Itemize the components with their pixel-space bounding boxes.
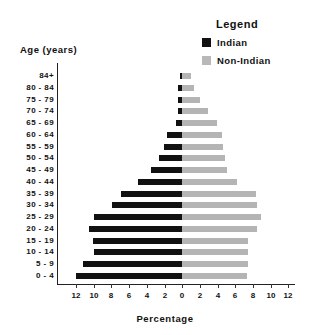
bar-indian (164, 144, 182, 150)
bar-indian (76, 273, 182, 279)
bar-indian (151, 167, 182, 173)
x-tick-label: 8 (243, 291, 263, 300)
x-tick (200, 284, 201, 288)
bar-non-indian (182, 97, 200, 103)
age-label: 50 - 54 (26, 154, 54, 162)
bar-non-indian (182, 214, 261, 220)
bar-non-indian (182, 144, 223, 150)
age-label: 70 - 74 (26, 107, 54, 115)
age-label: 0 - 4 (36, 272, 54, 280)
bar-indian (94, 249, 182, 255)
age-label: 20 - 24 (26, 225, 54, 233)
age-label: 65 - 69 (26, 119, 54, 127)
bar-indian (93, 238, 182, 244)
bar-non-indian (182, 226, 257, 232)
age-label: 84+ (39, 72, 54, 80)
bar-non-indian (182, 202, 257, 208)
age-label: 30 - 34 (26, 201, 54, 209)
bar-non-indian (182, 179, 237, 185)
x-tick (76, 284, 77, 288)
x-tick-label: 6 (225, 291, 245, 300)
bar-non-indian (182, 155, 225, 161)
x-axis-line (57, 284, 295, 285)
bar-indian (83, 261, 182, 267)
x-tick (253, 284, 254, 288)
age-label: 35 - 39 (26, 190, 54, 198)
bar-indian (121, 191, 182, 197)
bar-non-indian (182, 85, 194, 91)
x-tick-label: 0 (172, 291, 192, 300)
x-tick (111, 284, 112, 288)
bar-indian (89, 226, 182, 232)
bar-non-indian (182, 249, 248, 255)
bar-non-indian (182, 108, 208, 114)
x-tick (129, 284, 130, 288)
bar-non-indian (182, 73, 191, 79)
bar-non-indian (182, 261, 248, 267)
bar-indian (112, 202, 182, 208)
y-axis-line (57, 63, 58, 284)
x-tick (271, 284, 272, 288)
x-tick-label: 6 (119, 291, 139, 300)
age-label: 60 - 64 (26, 131, 54, 139)
x-tick (182, 284, 183, 288)
age-label: 5 - 9 (36, 260, 54, 268)
age-label: 75 - 79 (26, 96, 54, 104)
bar-non-indian (182, 167, 227, 173)
bar-non-indian (182, 120, 217, 126)
x-tick (218, 284, 219, 288)
bar-non-indian (182, 191, 256, 197)
bar-indian (159, 155, 182, 161)
age-label: 15 - 19 (26, 237, 54, 245)
age-label: 45 - 49 (26, 166, 54, 174)
bar-indian (94, 214, 182, 220)
x-tick-label: 2 (190, 291, 210, 300)
age-label: 40 - 44 (26, 178, 54, 186)
age-label: 10 - 14 (26, 248, 54, 256)
x-tick (288, 284, 289, 288)
x-tick-label: 4 (137, 291, 157, 300)
x-tick (94, 284, 95, 288)
x-tick (165, 284, 166, 288)
bar-non-indian (182, 273, 247, 279)
x-tick (147, 284, 148, 288)
age-label: 80 - 84 (26, 84, 54, 92)
age-label: 25 - 29 (26, 213, 54, 221)
x-tick-label: 8 (101, 291, 121, 300)
bar-indian (138, 179, 182, 185)
bar-indian (167, 132, 182, 138)
bar-non-indian (182, 132, 222, 138)
age-label: 55 - 59 (26, 143, 54, 151)
population-pyramid-plot: 84+80 - 8475 - 7970 - 7465 - 6960 - 6455… (0, 0, 319, 335)
x-tick-label: 12 (66, 291, 86, 300)
x-tick-label: 12 (278, 291, 298, 300)
x-tick (235, 284, 236, 288)
bar-non-indian (182, 238, 248, 244)
